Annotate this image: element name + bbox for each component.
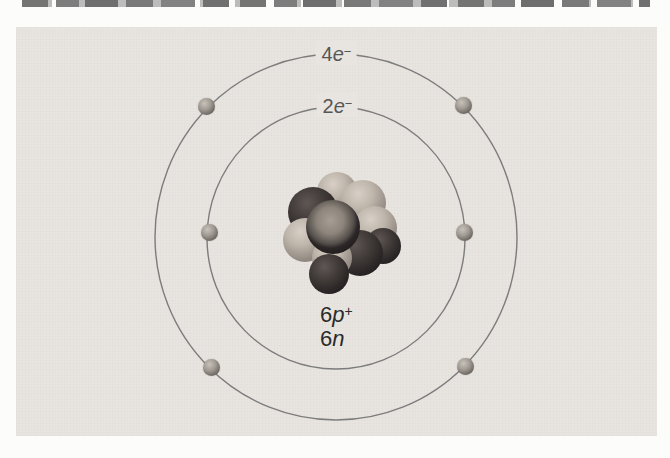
electron-inner-right (456, 224, 473, 241)
inner-shell-particle: e (334, 95, 345, 117)
nucleus (281, 170, 403, 294)
proton-count-label: 6p+ (320, 299, 353, 327)
electron-inner-left (201, 224, 218, 241)
outer-shell-particle: e (333, 43, 344, 65)
electron-outer-top-left (198, 98, 215, 115)
inner-shell-count: 2 (323, 95, 334, 117)
scanned-figure-page: 4e− 2e− 6p+ 6n (0, 0, 670, 458)
inner-shell-label: 2e− (317, 93, 358, 117)
inner-shell-charge: − (345, 96, 352, 111)
electron-outer-bottom-right (457, 358, 474, 375)
neutron-count-label: 6n (320, 327, 353, 351)
outer-shell-charge: − (344, 44, 351, 59)
electron-outer-bottom-left (203, 359, 220, 376)
electron-outer-top-right (455, 97, 472, 114)
nucleus-count-label: 6p+ 6n (320, 299, 353, 351)
nucleon-ringed-sphere (306, 200, 360, 254)
outer-shell-count: 4 (322, 43, 333, 65)
nucleon-dark-sphere (309, 254, 349, 294)
outer-shell-label: 4e− (316, 41, 357, 65)
